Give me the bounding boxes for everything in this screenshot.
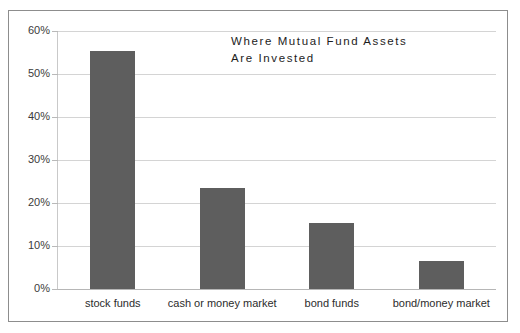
y-axis-tick-label: 0% (10, 283, 50, 294)
chart-title: Where Mutual Fund Assets Are Invested (231, 33, 407, 67)
y-axis-tick-mark (52, 246, 58, 247)
y-axis-tick-label: 30% (10, 154, 50, 165)
x-axis-tick-label: bond/money market (387, 297, 497, 310)
y-axis-tick-label: 20% (10, 197, 50, 208)
chart-figure: 0%10%20%30%40%50%60% Where Mutual Fund A… (8, 10, 508, 322)
y-axis-tick-label: 10% (10, 240, 50, 251)
gridline (58, 31, 496, 32)
x-axis-tick-label: bond funds (277, 297, 387, 310)
y-axis-tick-mark (52, 31, 58, 32)
y-axis-tick-mark (52, 117, 58, 118)
plot-area (58, 31, 496, 289)
x-axis-tick-label: stock funds (58, 297, 168, 310)
y-axis-tick-mark (52, 160, 58, 161)
y-axis-tick-mark (52, 74, 58, 75)
bar (419, 261, 464, 289)
bar (200, 188, 245, 289)
bar (309, 223, 354, 289)
x-axis-tick-label: cash or money market (168, 297, 278, 310)
y-axis-tick-mark (52, 203, 58, 204)
gridline (58, 289, 496, 290)
y-axis-tick-mark (52, 289, 58, 290)
y-axis-tick-label: 50% (10, 68, 50, 79)
y-axis-labels: 0%10%20%30%40%50%60% (9, 11, 50, 323)
bar (90, 51, 135, 289)
y-axis-tick-label: 40% (10, 111, 50, 122)
y-axis-tick-label: 60% (10, 25, 50, 36)
